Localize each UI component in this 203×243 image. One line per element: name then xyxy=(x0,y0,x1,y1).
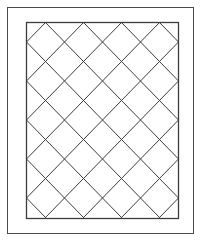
figure-root xyxy=(0,0,203,243)
diamond-lattice-figure xyxy=(0,0,203,243)
